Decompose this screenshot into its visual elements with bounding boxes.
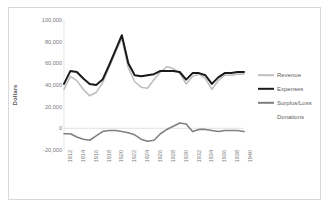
x-axis-tick-label: 1914: [80, 150, 86, 162]
x-axis-tick-label: 1928: [170, 150, 176, 162]
legend-swatch-surplus-loss: [258, 99, 274, 107]
x-axis-tick-label: 1938: [234, 150, 240, 162]
legend-item-surplus-loss[interactable]: Surplus/Loss: [258, 96, 324, 110]
x-axis-tick-label: 1936: [221, 150, 227, 162]
x-axis-tick-label: 1916: [93, 150, 99, 162]
plot-svg: [64, 20, 244, 150]
chart-container: Dollars 100,00080,00060,00040,00020,0000…: [0, 0, 330, 208]
x-axis-tick-label: 1920: [118, 150, 124, 162]
x-axis-tick-labels: 1912191419161918192019221924192619281930…: [64, 150, 244, 196]
y-axis-tick-label: -20,000: [20, 147, 62, 153]
legend-item-expenses[interactable]: Expenses: [258, 82, 324, 96]
legend-swatch-donations: [258, 113, 274, 121]
legend-label: Donations: [277, 114, 304, 121]
legend-item-donations[interactable]: Donations: [258, 110, 324, 124]
legend-swatch-expenses: [258, 85, 274, 93]
series-line-expenses: [64, 35, 244, 85]
x-axis-tick-label: 1940: [247, 150, 253, 162]
y-axis-tick-label: 40,000: [20, 82, 62, 88]
legend-label: Surplus/Loss: [277, 100, 312, 107]
legend-item-revenue[interactable]: Revenue: [258, 68, 324, 82]
y-axis-tick-label: 100,000: [20, 17, 62, 23]
y-axis-tick-labels: 100,00080,00060,00040,00020,0000-20,000: [18, 0, 62, 208]
x-axis-tick-label: 1918: [106, 150, 112, 162]
legend-label: Expenses: [277, 86, 303, 93]
x-axis-tick-label: 1932: [196, 150, 202, 162]
x-axis-tick-label: 1924: [144, 150, 150, 162]
series-line-surplus-loss: [64, 123, 244, 141]
x-axis-tick-label: 1922: [131, 150, 137, 162]
plot-area: [64, 20, 244, 150]
chart-legend: RevenueExpensesSurplus/LossDonations: [258, 68, 324, 124]
series-line-revenue: [64, 38, 244, 95]
x-axis-tick-label: 1934: [208, 150, 214, 162]
x-axis-tick-label: 1926: [157, 150, 163, 162]
y-axis-tick-label: 80,000: [20, 39, 62, 45]
x-axis-tick-label: 1912: [67, 150, 73, 162]
legend-swatch-revenue: [258, 71, 274, 79]
y-axis-tick-label: 20,000: [20, 104, 62, 110]
y-axis-tick-label: 0: [20, 125, 62, 131]
y-axis-tick-label: 60,000: [20, 60, 62, 66]
x-axis-tick-label: 1930: [183, 150, 189, 162]
legend-label: Revenue: [277, 72, 301, 79]
